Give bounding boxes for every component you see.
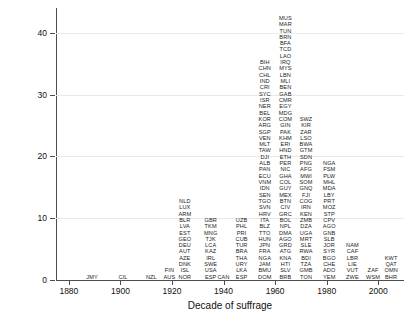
country-code: ZWE: [346, 274, 359, 280]
y-tick-label: 0: [42, 275, 47, 285]
country-code: WSM: [366, 274, 380, 280]
y-tick: [50, 156, 55, 157]
code-column: ZWEVUTLIELBRCAFNAM: [346, 242, 359, 280]
country-code: NZL: [146, 274, 157, 280]
y-tick-label: 30: [38, 90, 47, 100]
x-tick-label: 1940: [214, 286, 233, 296]
country-code: ESP: [205, 274, 217, 280]
y-tick-label: 20: [38, 151, 47, 161]
x-tick-label: 1980: [317, 286, 336, 296]
suffrage-chart: 010203040 JMYCILNZLAUSFINNORISLDNKAZEAUT…: [0, 0, 414, 325]
country-code: BRB: [280, 274, 292, 280]
code-column: YEMADOCHEBGOSYRJORSLBGNBAGOCPVSTPMOZPRTL…: [323, 160, 336, 280]
x-tick-label: 1900: [111, 286, 130, 296]
x-tick: [378, 281, 379, 285]
x-tick: [172, 281, 173, 285]
code-column: BRBSLVHTIKNAATGGRDAGODMANPLBOLGRCCIVBTNM…: [279, 15, 292, 280]
country-code: NOR: [179, 274, 192, 280]
country-code: JMY: [86, 274, 98, 280]
gridline: [56, 156, 404, 157]
y-tick: [50, 33, 55, 34]
code-column: JMY: [86, 274, 98, 280]
gridline: [56, 33, 404, 34]
code-column: CAN: [217, 274, 229, 280]
gridline: [56, 218, 404, 219]
y-tick: [50, 95, 55, 96]
x-tick: [224, 281, 225, 285]
x-tick: [69, 281, 70, 285]
x-tick: [275, 281, 276, 285]
y-tick-label: 40: [38, 28, 47, 38]
y-tick: [50, 280, 55, 281]
code-column: NZL: [146, 274, 157, 280]
code-column: WSMZAF: [366, 267, 380, 280]
x-tick-label: 1880: [59, 286, 78, 296]
code-column: TONGMBTZABDIRWASLEMRTUGADZAZMBKENIRNCOGF…: [300, 116, 313, 280]
country-code: YEM: [323, 274, 335, 280]
country-code: DOM: [258, 274, 271, 280]
y-tick: [50, 218, 55, 219]
code-column: ESPLKAURYTHABRATURCUBPRIPHLUZB: [236, 217, 248, 280]
country-code: CAN: [217, 274, 229, 280]
plot-area: 010203040 JMYCILNZLAUSFINNORISLDNKAZEAUT…: [56, 8, 404, 280]
code-column: NORISLDNKAZEAUTDEUGEOESTLVABLRARMLUXNLD: [179, 198, 192, 280]
code-column: CIL: [119, 274, 128, 280]
country-code: TON: [300, 274, 312, 280]
country-code: AUS: [164, 274, 176, 280]
code-column: ESPUSASWEIRLKAZLCATJKMNGTKMGBR: [204, 217, 217, 280]
x-tick-label: 1960: [266, 286, 285, 296]
y-tick-label: 10: [38, 213, 47, 223]
country-code: ESP: [236, 274, 248, 280]
x-axis-line: [56, 280, 404, 281]
gridline: [56, 95, 404, 96]
x-tick-label: 2000: [369, 286, 388, 296]
code-column: BHROMNQATKWT: [384, 255, 397, 280]
code-column: DOMBMUJAMNGAFRAJPNHUNTTOBLZITAHRVSVNTGOS…: [258, 59, 271, 280]
x-tick: [327, 281, 328, 285]
country-code: BHR: [385, 274, 397, 280]
x-axis-title: Decade of suffrage: [56, 300, 404, 311]
country-code: CIL: [119, 274, 128, 280]
x-tick: [120, 281, 121, 285]
code-column: AUSFIN: [164, 267, 176, 280]
x-tick-label: 1920: [163, 286, 182, 296]
